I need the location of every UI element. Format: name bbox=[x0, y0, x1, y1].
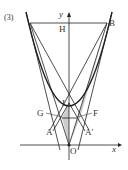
line-b-tangent bbox=[78, 12, 112, 150]
x-axis-label: x bbox=[112, 145, 116, 154]
point-a-label: A bbox=[46, 128, 53, 137]
line-left-tangent bbox=[26, 12, 60, 150]
problem-number: (3) bbox=[4, 14, 13, 22]
point-o-label: O bbox=[70, 147, 77, 156]
point-f-label: F bbox=[93, 109, 98, 118]
y-axis-label: y bbox=[59, 10, 63, 19]
y-axis-arrow-icon bbox=[67, 12, 71, 17]
x-axis-arrow-icon bbox=[118, 143, 122, 147]
point-b-label: B bbox=[109, 19, 115, 28]
point-i-label: I bbox=[62, 99, 65, 108]
point-a-prime-label: A′ bbox=[85, 128, 93, 137]
diagram: (3) y x H B I G F A A′ O bbox=[0, 0, 128, 170]
point-g-label: G bbox=[37, 109, 44, 118]
point-h-label: H bbox=[59, 25, 66, 34]
